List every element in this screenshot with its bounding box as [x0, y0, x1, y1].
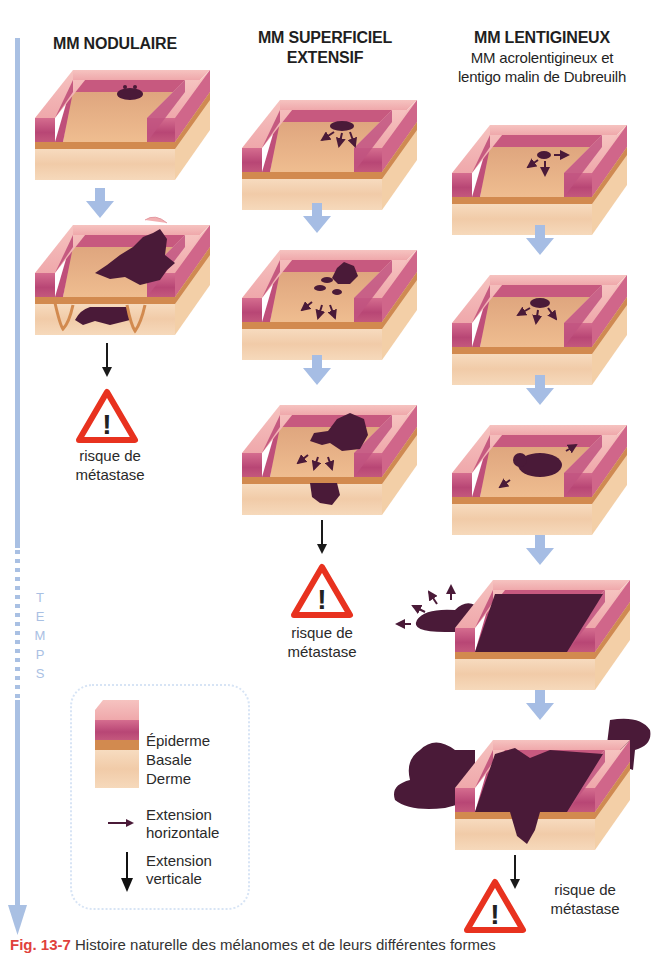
- legend-label-vertical-line1: Extension: [146, 852, 212, 870]
- flow-arrow-icon: [526, 690, 554, 720]
- figure-caption: Fig. 13-7 Histoire naturelle des mélanom…: [10, 936, 496, 954]
- skin-block-lentigineux-stage-2: [452, 275, 627, 385]
- skin-block-lentigineux-stage-5: [394, 719, 650, 850]
- legend-label-basale: Basale: [146, 751, 192, 769]
- legend-label-derme: Derme: [146, 770, 191, 788]
- skin-block-lentigineux-stage-3: [452, 425, 627, 535]
- legend-label-vertical: Extension verticale: [146, 852, 212, 888]
- legend-label-vertical-line2: verticale: [146, 870, 212, 888]
- skin-block-lentigineux-stage-1: [452, 125, 627, 235]
- legend-skin-swatch: [95, 700, 139, 790]
- risk-label-line1: risque de: [530, 880, 640, 899]
- legend-label-horizontal-line1: Extension: [146, 806, 219, 824]
- vertical-extension-legend-arrow-icon: [120, 852, 134, 894]
- legend-label-epiderme: Épiderme: [146, 732, 210, 750]
- warning-triangle-icon: [467, 882, 523, 930]
- flow-arrow-icon: [526, 535, 554, 565]
- legend-label-horizontal: Extension horizontale: [146, 806, 219, 842]
- risk-label-lentigineux: risque de métastase: [530, 880, 640, 918]
- figure-caption-text: Histoire naturelle des mélanomes et de l…: [75, 936, 496, 953]
- vertical-extension-arrow-icon: [510, 855, 520, 889]
- skin-block-lentigineux-stage-4: [397, 580, 630, 690]
- horizontal-extension-arrow-icon: [106, 818, 136, 828]
- legend-label-horizontal-line2: horizontale: [146, 824, 219, 842]
- figure-number: Fig. 13-7: [10, 936, 71, 953]
- risk-label-line2: métastase: [530, 899, 640, 918]
